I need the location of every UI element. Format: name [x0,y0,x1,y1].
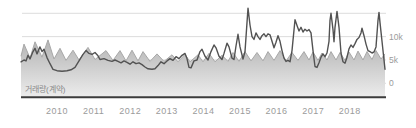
volume-area-fill [21,40,385,97]
volume-chart-panel: 거래량(계약) 10k5k020102011201220132014201520… [0,0,416,128]
x-axis-year-label: 2016 [266,107,288,116]
pane-label: 거래량(계약) [25,86,65,94]
y-axis-tick-label: 0 [389,79,394,88]
x-axis-year-label: 2017 [302,107,324,116]
x-axis-year-label: 2014 [192,107,214,116]
x-axis-year-label: 2010 [46,107,68,116]
x-axis-year-label: 2013 [156,107,178,116]
y-axis-tick-label: 10k [389,33,403,42]
x-axis-year-label: 2015 [229,107,251,116]
y-axis-tick-label: 5k [389,56,398,65]
x-axis-year-label: 2012 [119,107,141,116]
x-axis-year-label: 2018 [339,107,361,116]
x-axis-year-label: 2011 [83,107,104,116]
